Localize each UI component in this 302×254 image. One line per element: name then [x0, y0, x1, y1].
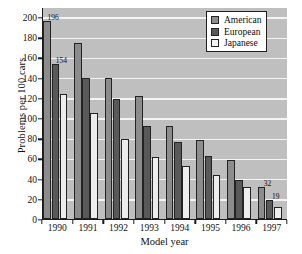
bar-american-1996 [227, 160, 235, 219]
x-axis-tick-mark [72, 220, 73, 224]
x-axis-tick-mark [164, 220, 165, 224]
legend-label: Japanese [224, 38, 258, 48]
y-axis-tick-label: 180 [23, 33, 37, 43]
bar-value-label: 154 [56, 56, 67, 65]
legend-swatch-icon [211, 28, 219, 36]
x-axis-tick-label: 1996 [232, 223, 251, 233]
y-axis-tick-label: 100 [23, 114, 37, 124]
bar-japanese-1997 [274, 207, 282, 219]
bar-american-1991 [74, 43, 82, 219]
bar-american-1997 [258, 187, 266, 219]
bar-american-1992 [105, 78, 113, 219]
bar-value-label: 19 [272, 192, 280, 201]
bar-european-1995 [205, 156, 213, 219]
y-axis-tick-label: 80 [28, 134, 38, 144]
bar-japanese-1994 [182, 166, 190, 220]
y-axis-tick-label: 200 [23, 13, 37, 23]
y-axis-tick-label: 60 [28, 154, 38, 164]
bar-european-1996 [235, 180, 243, 219]
x-axis-tick-mark [133, 220, 134, 224]
bar-japanese-1992 [121, 139, 129, 219]
x-axis-tick-label: 1995 [201, 223, 220, 233]
bar-american-1995 [196, 140, 204, 219]
x-axis-tick-label: 1991 [78, 223, 97, 233]
y-axis-tick-label: 120 [23, 94, 37, 104]
bar-european-1993 [143, 126, 151, 219]
y-axis-tick-label: 20 [28, 195, 38, 205]
bar-japanese-1991 [90, 113, 98, 219]
x-axis-tick-label: 1990 [48, 223, 67, 233]
legend-label: European [224, 27, 260, 37]
bar-japanese-1990 [60, 94, 68, 219]
legend-label: American [224, 15, 261, 25]
x-axis-title: Model year [42, 236, 287, 247]
bar-value-label: 32 [264, 179, 272, 188]
bar-japanese-1996 [243, 187, 251, 219]
y-axis-tick-label: 0 [32, 215, 37, 225]
x-axis-tick-mark [41, 220, 42, 224]
x-axis-tick-mark [194, 220, 195, 224]
bar-japanese-1995 [213, 175, 221, 219]
y-axis-tick-labels: 020406080100120140160180200 [0, 8, 42, 220]
y-axis-tick-label: 160 [23, 53, 37, 63]
x-axis-tick-label: 1994 [170, 223, 189, 233]
x-axis-tick-label: 1992 [109, 223, 128, 233]
legend-item-european: European [211, 27, 261, 37]
bar-european-1992 [113, 99, 121, 219]
x-axis-tick-mark [286, 220, 287, 224]
bar-american-1993 [135, 96, 143, 219]
bar-european-1991 [82, 78, 90, 219]
bar-value-label: 196 [47, 13, 58, 22]
y-axis-tick-label: 40 [28, 175, 38, 185]
bar-american-1994 [166, 126, 174, 219]
y-axis-tick-label: 140 [23, 74, 37, 84]
bar-european-1997 [266, 200, 274, 219]
legend-item-american: American [211, 15, 261, 25]
x-axis-tick-mark [103, 220, 104, 224]
x-axis-tick-mark [256, 220, 257, 224]
bar-japanese-1993 [152, 157, 160, 219]
legend: AmericanEuropeanJapanese [206, 11, 267, 52]
x-axis-tick-label: 1997 [262, 223, 281, 233]
bar-american-1990 [43, 21, 51, 219]
x-axis-tick-labels: 19901991199219931994199519961997 [42, 220, 287, 236]
bar-european-1990 [52, 64, 60, 219]
legend-item-japanese: Japanese [211, 38, 261, 48]
x-axis-tick-mark [225, 220, 226, 224]
legend-swatch-icon [211, 39, 219, 47]
x-axis-tick-label: 1993 [140, 223, 159, 233]
bar-chart: Problems per 100 cars 020406080100120140… [0, 0, 302, 254]
bar-european-1994 [174, 142, 182, 219]
legend-swatch-icon [211, 16, 219, 24]
